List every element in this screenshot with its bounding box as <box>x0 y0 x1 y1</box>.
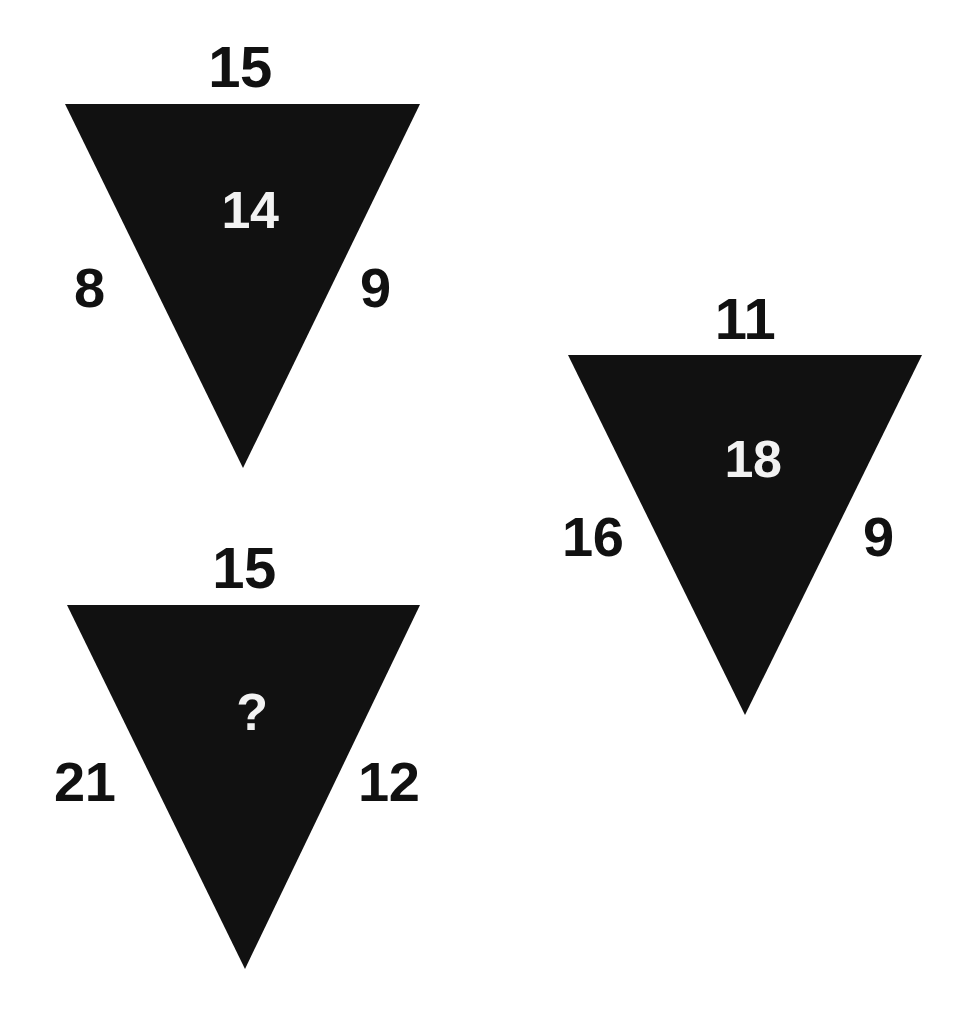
triangle-1-left-label: 8 <box>74 260 105 316</box>
triangle-2-center-label: 18 <box>713 433 793 485</box>
triangle-1-top-label: 15 <box>180 38 300 96</box>
triangle-3-top-label: 15 <box>184 539 304 597</box>
triangle-3-right-label: 12 <box>358 754 419 810</box>
triangle-3-left-label: 21 <box>54 754 115 810</box>
triangle-1-right-label: 9 <box>360 260 391 316</box>
triangle-2-top-label: 11 <box>685 290 805 348</box>
triangle-figure-1: 15 14 8 9 <box>60 100 422 472</box>
triangle-1-center-label: 14 <box>210 184 290 236</box>
triangle-2-left-label: 16 <box>562 509 623 565</box>
puzzle-canvas: 15 14 8 9 11 18 16 9 15 ? 21 12 <box>0 0 953 1030</box>
triangle-3-center-unknown-label: ? <box>212 686 292 738</box>
triangle-figure-2: 11 18 16 9 <box>563 351 925 719</box>
triangle-2-right-label: 9 <box>863 509 894 565</box>
triangle-figure-3: 15 ? 21 12 <box>62 601 424 973</box>
